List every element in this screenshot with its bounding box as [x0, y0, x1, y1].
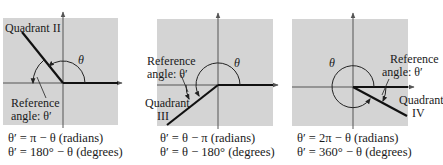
quadrant-label-line2: IV: [412, 106, 425, 120]
quadrant-label-line2: III: [157, 109, 169, 123]
theta-label: θ: [234, 56, 240, 70]
theta-label: θ: [329, 56, 335, 70]
reference-label-line1: Reference: [390, 52, 439, 66]
reference-label-line1: Reference: [147, 54, 196, 68]
reference-label-line2: angle: θ′: [11, 109, 52, 123]
formula-radians: θ′ = θ − π (radians): [160, 131, 255, 145]
quadrant-label: Quadrant II: [5, 21, 61, 35]
panel-quadrant-iv: θ Reference angle: θ′ Quadrant IV θ′ = 2…: [292, 13, 443, 159]
panel-quadrant-iii: θ Reference angle: θ′ Quadrant III θ′ = …: [145, 13, 278, 159]
theta-label: θ: [78, 53, 84, 67]
formula-radians: θ′ = 2π − θ (radians): [297, 131, 398, 145]
quadrant-label-line1: Quadrant: [145, 96, 190, 110]
reference-label-line2: angle: θ′: [382, 65, 423, 79]
formula-radians: θ′ = π − θ (radians): [8, 131, 103, 145]
quadrant-label-line1: Quadrant: [399, 93, 443, 107]
reference-angle-diagram: θ Quadrant II Reference angle: θ′ θ′ = π…: [0, 0, 443, 165]
formula-degrees: θ′ = 360° − θ (degrees): [297, 145, 412, 159]
reference-label-line2: angle: θ′: [147, 67, 188, 81]
panel-quadrant-ii: θ Quadrant II Reference angle: θ′ θ′ = π…: [3, 12, 123, 159]
formula-degrees: θ′ = 180° − θ (degrees): [8, 145, 123, 159]
reference-label-line1: Reference: [11, 96, 60, 110]
formula-degrees: θ′ = θ − 180° (degrees): [160, 145, 275, 159]
